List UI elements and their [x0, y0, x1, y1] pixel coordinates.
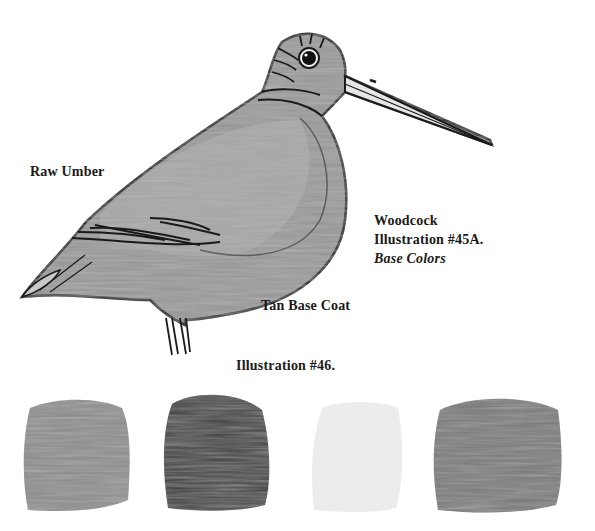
caption-number: Illustration #45A.	[374, 230, 483, 249]
bird-legs	[166, 318, 190, 355]
swatch-4	[434, 399, 562, 513]
label-raw-umber: Raw Umber	[30, 164, 105, 180]
label-tan-base-coat: Tan Base Coat	[261, 298, 350, 314]
bird-eye	[299, 48, 319, 68]
illustration-caption: Woodcock Illustration #45A. Base Colors	[374, 211, 483, 268]
paint-swatches	[24, 395, 562, 513]
swatch-3	[312, 402, 402, 512]
caption-subtitle: Base Colors	[374, 249, 483, 268]
swatch-2	[164, 395, 269, 511]
caption-title: Woodcock	[374, 211, 483, 230]
swatches-title: Illustration #46.	[236, 358, 335, 374]
swatch-1	[24, 400, 130, 511]
woodcock-illustration	[0, 0, 595, 531]
